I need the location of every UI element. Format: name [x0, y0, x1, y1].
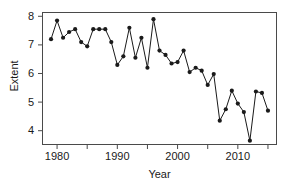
data-point [55, 18, 59, 22]
data-point [182, 49, 186, 53]
data-point [151, 17, 155, 21]
axis-ticks [38, 16, 268, 149]
data-point [212, 72, 216, 76]
data-point [139, 36, 143, 40]
data-point [230, 89, 234, 93]
data-point [67, 30, 71, 34]
data-point [85, 44, 89, 48]
data-point [188, 70, 192, 74]
data-point [194, 66, 198, 70]
data-point [266, 109, 270, 113]
data-point [169, 61, 173, 65]
data-point [79, 40, 83, 44]
data-point [115, 63, 119, 67]
data-point [103, 27, 107, 31]
data-point [127, 26, 131, 30]
data-point [224, 107, 228, 111]
data-point [157, 49, 161, 53]
data-point [109, 40, 113, 44]
data-point [236, 101, 240, 105]
x-axis-title: Year [42, 168, 277, 180]
data-point [163, 53, 167, 57]
data-point [200, 69, 204, 73]
data-point [49, 37, 53, 41]
y-tick-label: 8 [12, 11, 34, 22]
data-point [218, 119, 222, 123]
data-point [242, 110, 246, 114]
chart-figure: 45678 1980199020002010 Extent Year [0, 0, 292, 187]
y-axis-title: Extent [8, 46, 20, 106]
data-point [260, 91, 264, 95]
data-point [73, 27, 77, 31]
data-point-markers [49, 17, 270, 143]
data-point [145, 66, 149, 70]
data-point [254, 89, 258, 93]
x-tick-label: 1980 [37, 151, 77, 162]
data-point [61, 36, 65, 40]
data-point [248, 139, 252, 143]
data-point [91, 27, 95, 31]
y-tick-label: 4 [12, 125, 34, 136]
x-tick-label: 2010 [218, 151, 258, 162]
x-tick-label: 2000 [158, 151, 198, 162]
data-point [175, 60, 179, 64]
data-series-line [51, 19, 268, 141]
x-tick-label: 1990 [97, 151, 137, 162]
data-point [133, 56, 137, 60]
data-point [97, 27, 101, 31]
data-point [121, 54, 125, 58]
data-point [206, 83, 210, 87]
